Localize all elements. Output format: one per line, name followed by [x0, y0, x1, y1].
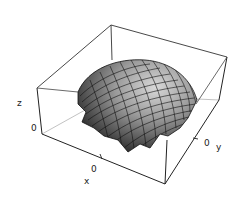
surface-plot: [0, 0, 233, 198]
y-tick-zero: 0: [204, 139, 210, 148]
x-tick-zero: 0: [91, 165, 97, 174]
z-tick-zero: 0: [31, 124, 37, 133]
dome-surface: [78, 60, 197, 152]
y-axis-label: y: [216, 143, 221, 152]
x-axis-label: x: [84, 177, 89, 186]
z-axis-label: z: [17, 99, 22, 108]
